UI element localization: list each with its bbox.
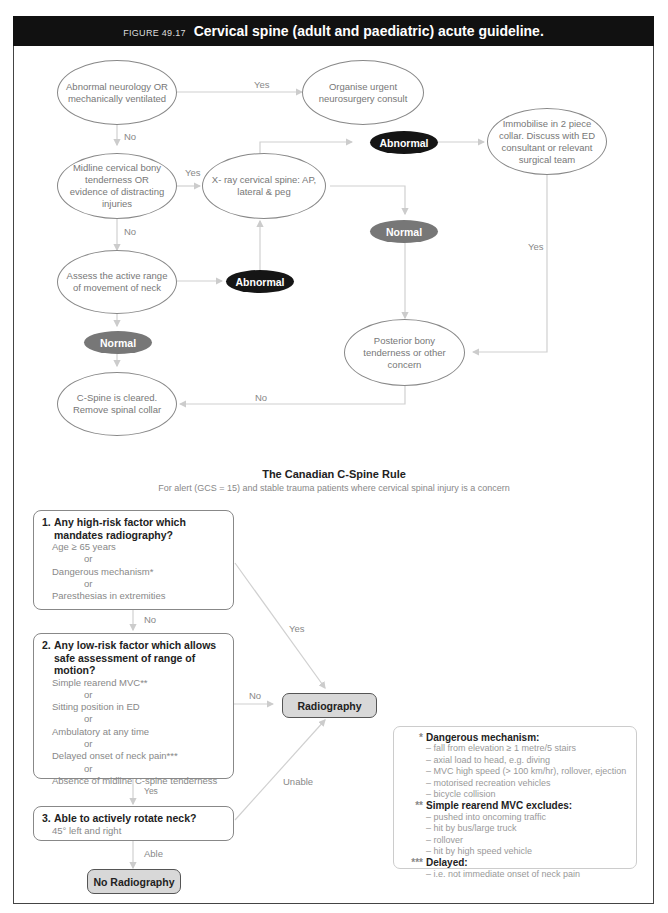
question-box-high-risk: 1.Any high-risk factor which mandates ra… [33, 510, 234, 610]
edge-label-no: No [124, 131, 136, 142]
badge-normal-rom: Normal [84, 331, 152, 354]
node-midline-tenderness: Midline cervical bony tenderness OR evid… [57, 153, 177, 219]
question-text: mandates radiography? [42, 529, 227, 542]
criterion-item: Dangerous mechanism* [42, 566, 227, 578]
node-xray: X- ray cervical spine: AP, lateral & peg [202, 153, 326, 219]
footnote-marker: *** [404, 857, 423, 868]
footnote-item: – hit by high speed vehicle [404, 846, 630, 857]
edge-label-yes: Yes [289, 623, 305, 634]
edge-label-no: No [124, 226, 136, 237]
badge-abnormal-rom: Abnormal [226, 270, 294, 293]
criterion-item: Age ≥ 65 years [42, 541, 227, 553]
or-separator: or [42, 689, 227, 701]
criterion-item: Paresthesias in extremities [42, 590, 227, 602]
edge-label-yes: Yes [144, 786, 158, 796]
footnote-item: – axial load to head, e.g. diving [404, 755, 630, 766]
or-separator: or [42, 713, 227, 725]
question-number: 3. [42, 812, 54, 825]
footnote-heading: Simple rearend MVC excludes: [426, 800, 572, 811]
footnote-item: – fall from elevation ≥ 1 metre/5 stairs [404, 743, 630, 754]
node-cspine-cleared: C-Spine is cleared. Remove spinal collar [57, 372, 177, 436]
footnote-item: – pushed into oncoming traffic [404, 812, 630, 823]
question-number: 1. [42, 516, 54, 529]
or-separator: or [42, 553, 227, 565]
criterion-item: 45° left and right [42, 825, 227, 837]
question-text: safe assessment of range of motion? [42, 652, 227, 677]
footnote-item: – MVC high speed (> 100 km/hr), rollover… [404, 766, 630, 777]
footnote-item: – rollover [404, 835, 630, 846]
criterion-item: Simple rearend MVC** [42, 677, 227, 689]
edge-label-unable: Unable [283, 776, 313, 787]
result-no-radiography: No Radiography [87, 869, 181, 894]
edge-label-no: No [249, 690, 261, 701]
question-text: Able to actively rotate neck? [54, 812, 196, 824]
question-text: Any high-risk factor which [54, 516, 186, 528]
criterion-item: Ambulatory at any time [42, 726, 227, 738]
edge-label-yes: Yes [528, 241, 544, 252]
or-separator: or [42, 578, 227, 590]
or-separator: or [42, 763, 227, 775]
footnote-heading: Delayed: [426, 857, 468, 868]
node-immobilise: Immobilise in 2 piece collar. Discuss wi… [487, 108, 607, 175]
badge-abnormal-xray: Abnormal [370, 131, 438, 154]
canadian-rule-subtitle: For alert (GCS = 15) and stable trauma p… [0, 483, 668, 493]
footnote-item: – bicycle collision [404, 789, 630, 800]
edge-label-yes: Yes [185, 167, 201, 178]
criterion-item: Sitting position in ED [42, 701, 227, 713]
footnote-marker: ** [404, 800, 423, 811]
edge-label-able: Able [144, 848, 163, 859]
footnote-heading: Dangerous mechanism: [426, 732, 539, 743]
criterion-item: Absence of midline C-spine tenderness [42, 775, 227, 787]
footnote-item: – i.e. not immediate onset of neck pain [404, 869, 630, 880]
or-separator: or [42, 738, 227, 750]
question-box-rotate-neck: 3.Able to actively rotate neck? 45° left… [33, 806, 234, 841]
question-box-low-risk: 2.Any low-risk factor which allows safe … [33, 633, 234, 779]
result-radiography: Radiography [282, 693, 377, 718]
criterion-item: Delayed onset of neck pain*** [42, 750, 227, 762]
canadian-rule-title: The Canadian C-Spine Rule [0, 468, 668, 480]
node-posterior-tenderness: Posterior bony tenderness or other conce… [344, 319, 465, 386]
question-text: Any low-risk factor which allows [54, 639, 216, 651]
edge-label-no: No [255, 392, 267, 403]
question-number: 2. [42, 639, 54, 652]
node-assess-rom: Assess the active range of movement of n… [57, 250, 177, 314]
footnote-marker: * [404, 732, 423, 743]
edge-label-no: No [144, 614, 156, 625]
footnote-item: – hit by bus/large truck [404, 823, 630, 834]
badge-normal-xray: Normal [370, 220, 438, 243]
footnote-item: – motorised recreation vehicles [404, 778, 630, 789]
node-abnormal-neurology: Abnormal neurology OR mechanically venti… [57, 60, 177, 125]
edge-label-yes: Yes [254, 79, 270, 90]
node-neurosurgery-consult: Organise urgent neurosurgery consult [302, 60, 424, 125]
footnote-legend: *Dangerous mechanism: – fall from elevat… [393, 726, 637, 869]
